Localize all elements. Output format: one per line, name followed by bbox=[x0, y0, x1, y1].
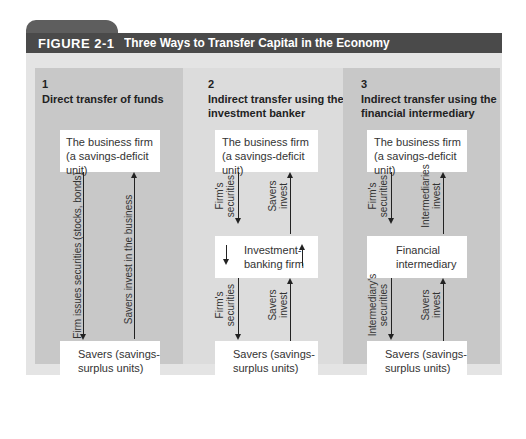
label-line: invest bbox=[278, 171, 289, 221]
label-line: Intermediary's bbox=[367, 269, 378, 341]
savers-invest-label: Savers invest in the business bbox=[123, 190, 134, 330]
box-line: banking firm bbox=[244, 257, 318, 271]
column-heading: Indirect transfer using the financial in… bbox=[361, 92, 497, 120]
arrow-up-icon bbox=[299, 244, 305, 250]
label-line: Savers bbox=[420, 280, 431, 330]
savers-box: Savers (savings- surplus units) bbox=[367, 341, 467, 381]
box-line: surplus units) bbox=[78, 361, 160, 375]
intermediaries-invest-label: Intermediaries invest bbox=[420, 158, 442, 234]
arrow-up-icon bbox=[131, 172, 137, 178]
invest-flow-line bbox=[290, 284, 291, 341]
column-number: 3 bbox=[361, 78, 367, 90]
figure-title: Three Ways to Transfer Capital in the Ec… bbox=[124, 35, 390, 50]
savers-box: Savers (savings- surplus units) bbox=[215, 341, 318, 381]
invest-flow-line bbox=[290, 178, 291, 234]
inner-flow-line bbox=[302, 250, 303, 266]
firms-securities-label: Firm's securities bbox=[367, 171, 389, 221]
securities-flow-line bbox=[238, 278, 239, 334]
label-line: Savers bbox=[267, 171, 278, 221]
savers-box: Savers (savings- surplus units) bbox=[60, 341, 160, 381]
column-direct-transfer bbox=[35, 68, 183, 364]
heading-line: Indirect transfer using the bbox=[208, 92, 344, 106]
invest-flow-line bbox=[443, 284, 444, 341]
savers-invest-label: Savers invest bbox=[267, 280, 289, 330]
box-line: Financial bbox=[396, 243, 467, 257]
heading-line: Indirect transfer using the bbox=[361, 92, 497, 106]
savers-invest-label: Savers invest bbox=[267, 171, 289, 221]
intermediarys-securities-label: Intermediary's securities bbox=[367, 269, 389, 341]
savers-invest-label: Savers invest bbox=[420, 280, 442, 330]
column-heading: Indirect transfer using the investment b… bbox=[208, 92, 344, 120]
label-line: securities bbox=[378, 171, 389, 221]
securities-flow-line bbox=[238, 172, 239, 220]
column-heading: Direct transfer of funds bbox=[42, 92, 164, 106]
label-line: invest bbox=[431, 158, 442, 234]
heading-line: investment banker bbox=[208, 106, 344, 120]
label-line: invest bbox=[431, 280, 442, 330]
box-line: surplus units) bbox=[385, 361, 467, 375]
label-line: securities bbox=[378, 269, 389, 341]
label-line: Firm's bbox=[214, 171, 225, 221]
securities-flow-line bbox=[391, 172, 392, 220]
invest-flow-line bbox=[134, 178, 135, 339]
arrow-down-icon bbox=[223, 259, 229, 265]
heading-line: financial intermediary bbox=[361, 106, 497, 120]
label-line: Firm's bbox=[214, 280, 225, 330]
label-line: securities bbox=[225, 280, 236, 330]
label-line: Firm's bbox=[367, 171, 378, 221]
firm-issues-securities-label: Firm issues securities (stocks, bonds) bbox=[72, 171, 83, 341]
box-line: Savers (savings- bbox=[78, 347, 160, 361]
figure-label: FIGURE 2-1 bbox=[38, 36, 115, 51]
securities-flow-line bbox=[83, 172, 84, 334]
business-firm-box: The business firm (a savings-deficit uni… bbox=[367, 130, 467, 172]
securities-flow-line bbox=[391, 278, 392, 334]
box-line: The business firm bbox=[374, 135, 467, 149]
arrow-down-icon bbox=[235, 334, 241, 340]
business-firm-box: The business firm (a savings-deficit uni… bbox=[60, 130, 160, 172]
invest-flow-line bbox=[443, 178, 444, 234]
column-number: 1 bbox=[42, 78, 48, 90]
box-line: surplus units) bbox=[233, 361, 318, 375]
firms-securities-label: Firm's securities bbox=[214, 280, 236, 330]
box-line: The business firm bbox=[222, 135, 318, 149]
box-line: Investment- bbox=[244, 243, 318, 257]
label-line: invest bbox=[278, 280, 289, 330]
column-number: 2 bbox=[208, 78, 214, 90]
box-line: Savers (savings- bbox=[233, 347, 318, 361]
business-firm-box: The business firm (a savings-deficit uni… bbox=[215, 130, 318, 172]
firms-securities-label: Firm's securities bbox=[214, 171, 236, 221]
box-line: intermediary bbox=[396, 257, 467, 271]
box-line: Savers (savings- bbox=[385, 347, 467, 361]
label-line: securities bbox=[225, 171, 236, 221]
box-line: The business firm bbox=[66, 135, 160, 149]
label-line: Intermediaries bbox=[420, 158, 431, 234]
label-line: Savers bbox=[267, 280, 278, 330]
